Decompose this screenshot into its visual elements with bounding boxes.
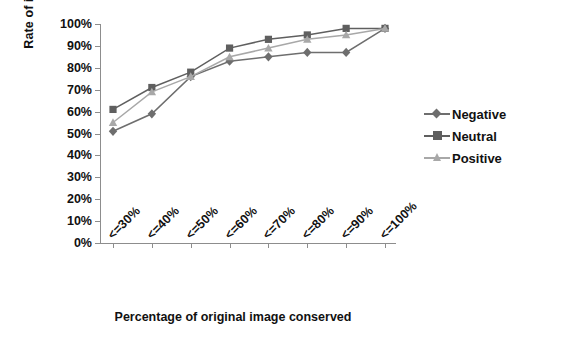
y-tick-label: 30% [67, 170, 92, 184]
y-tick-label: 60% [67, 105, 92, 119]
data-point-marker [265, 36, 272, 43]
y-tick [95, 243, 100, 244]
data-point-marker [109, 106, 116, 113]
x-tick [346, 243, 347, 248]
x-tick [191, 243, 192, 248]
legend-item-neutral[interactable]: Neutral [424, 125, 506, 147]
y-tick-label: 70% [67, 83, 92, 97]
chart-container: Rate of image 0%10%20%30%40%50%60%70%80%… [0, 0, 562, 342]
legend-item-positive[interactable]: Positive [424, 147, 506, 169]
y-tick-label: 20% [67, 192, 92, 206]
y-tick-label: 90% [67, 39, 92, 53]
data-point-marker [303, 48, 311, 57]
y-axis-title: Rate of image [22, 0, 36, 72]
y-tick-label: 40% [67, 148, 92, 162]
legend-item-negative[interactable]: Negative [424, 103, 506, 125]
data-point-marker [264, 52, 272, 61]
legend: NegativeNeutralPositive [424, 103, 506, 169]
y-tick-label: 10% [67, 214, 92, 228]
x-axis-title: Percentage of original image conserved [58, 310, 408, 324]
data-point-marker [342, 48, 350, 57]
series-line-neutral [113, 28, 385, 109]
x-tick [307, 243, 308, 248]
legend-item-label: Positive [452, 151, 502, 166]
y-tick-label: 80% [67, 61, 92, 75]
series-line-positive [113, 28, 385, 122]
square-marker-icon [424, 129, 450, 143]
x-tick [152, 243, 153, 248]
legend-item-label: Negative [452, 107, 506, 122]
data-point-marker [226, 44, 233, 51]
x-tick [230, 243, 231, 248]
x-tick [385, 243, 386, 248]
x-tick [268, 243, 269, 248]
legend-item-label: Neutral [452, 129, 497, 144]
y-tick-label: 100% [60, 17, 92, 31]
x-tick [113, 243, 114, 248]
data-point-marker [109, 127, 117, 136]
diamond-marker-icon [424, 107, 450, 121]
x-axis-line [100, 243, 396, 244]
triangle-marker-icon [424, 151, 450, 165]
y-tick-label: 50% [67, 127, 92, 141]
y-tick-label: 0% [74, 236, 92, 250]
